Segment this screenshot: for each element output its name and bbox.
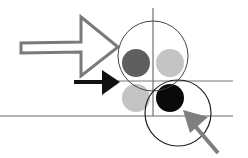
outline-arrow-icon [21, 17, 118, 76]
dark-gray-dot [122, 49, 150, 77]
light-gray-dot-upper [156, 49, 184, 77]
diagram-canvas [0, 0, 248, 158]
black-dot [156, 84, 184, 112]
